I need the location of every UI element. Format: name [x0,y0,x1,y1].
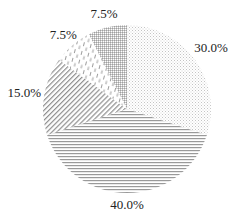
slice-percent-label: 15.0% [8,85,42,100]
pie-slices [43,25,211,193]
pie-chart: 30.0%40.0%15.0%7.5%7.5% [0,0,249,215]
slice-percent-label: 40.0% [110,197,144,212]
slice-percent-label: 7.5% [91,6,118,21]
slice-percent-label: 7.5% [50,27,77,42]
slice-percent-label: 30.0% [194,40,228,55]
